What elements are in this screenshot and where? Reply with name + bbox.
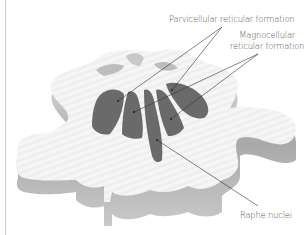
- label-parvicellular-reticular-formation: Parvicellular reticular formation: [169, 14, 294, 25]
- label-magnocellular-reticular-formation: Magnocellular reticular formation: [230, 30, 304, 51]
- label-magnocellular-line2: reticular formation: [230, 41, 304, 52]
- label-raphe-nuclei: Raphe nuclei: [240, 210, 292, 221]
- label-magnocellular-line1: Magnocellular: [230, 30, 304, 41]
